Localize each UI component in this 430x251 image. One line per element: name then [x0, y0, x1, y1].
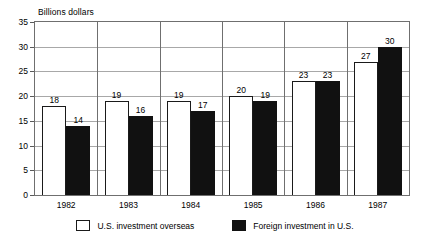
bar-1983-dark — [129, 116, 153, 195]
value-label-1986-dark: 23 — [313, 70, 343, 80]
x-axis-label-1984: 1984 — [167, 200, 215, 210]
bar-1986-dark — [316, 81, 340, 195]
y-tick-5 — [30, 170, 34, 171]
y-axis-label-5: 5 — [2, 165, 28, 175]
value-label-1984-light: 19 — [164, 90, 194, 100]
legend-swatch-dark-icon — [232, 220, 246, 231]
bar-1985-light — [229, 96, 253, 195]
bar-1987-dark — [378, 47, 402, 195]
y-axis-label-15: 15 — [2, 116, 28, 126]
value-label-1982-light: 18 — [39, 95, 69, 105]
bar-1984-light — [167, 101, 191, 195]
y-tick-10 — [30, 146, 34, 147]
x-axis-label-1982: 1982 — [42, 200, 90, 210]
bar-1983-light — [105, 101, 129, 195]
value-label-1984-dark: 17 — [188, 100, 218, 110]
legend-item-us-investment-overseas: U.S. investment overseas — [76, 220, 194, 231]
value-label-1982-dark: 14 — [63, 115, 93, 125]
y-axis-label-10: 10 — [2, 141, 28, 151]
bar-1985-dark — [253, 101, 277, 195]
y-tick-20 — [30, 96, 34, 97]
bar-chart-figure: Billions dollars 05101520253035 18191920… — [0, 0, 430, 251]
legend-label-foreign-investment-in-us: Foreign investment in U.S. — [253, 221, 353, 231]
bar-1984-dark — [191, 111, 215, 195]
bars-layer — [35, 22, 409, 195]
legend-swatch-light-icon — [76, 220, 90, 231]
x-axis-label-1987: 1987 — [354, 200, 402, 210]
legend-label-us-investment-overseas: U.S. investment overseas — [97, 221, 194, 231]
x-axis-label-1983: 1983 — [105, 200, 153, 210]
value-label-1983-dark: 16 — [126, 105, 156, 115]
y-axis-label-0: 0 — [2, 190, 28, 200]
bar-1982-dark — [66, 126, 90, 195]
legend-item-foreign-investment-in-us: Foreign investment in U.S. — [232, 220, 353, 231]
y-axis-label-20: 20 — [2, 91, 28, 101]
value-label-1987-dark: 30 — [375, 36, 405, 46]
y-axis-label-35: 35 — [2, 17, 28, 27]
y-tick-25 — [30, 71, 34, 72]
value-label-1985-dark: 19 — [250, 90, 280, 100]
y-tick-15 — [30, 121, 34, 122]
chart-axis-unit-title: Billions dollars — [38, 7, 94, 17]
bar-1986-light — [292, 81, 316, 195]
value-label-1987-light: 27 — [351, 51, 381, 61]
y-axis-label-25: 25 — [2, 66, 28, 76]
x-axis-label-1986: 1986 — [292, 200, 340, 210]
y-axis-label-30: 30 — [2, 42, 28, 52]
x-axis-label-1985: 1985 — [229, 200, 277, 210]
value-label-1983-light: 19 — [102, 90, 132, 100]
chart-legend: U.S. investment overseas Foreign investm… — [0, 220, 430, 231]
y-tick-35 — [30, 22, 34, 23]
y-tick-30 — [30, 47, 34, 48]
bar-1987-light — [354, 62, 378, 195]
y-tick-0 — [30, 195, 34, 196]
